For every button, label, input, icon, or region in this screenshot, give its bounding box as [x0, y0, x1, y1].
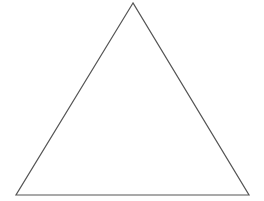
- triangle-shape: [16, 3, 249, 195]
- diagram-canvas: [0, 0, 264, 201]
- triangle-diagram: [0, 0, 264, 201]
